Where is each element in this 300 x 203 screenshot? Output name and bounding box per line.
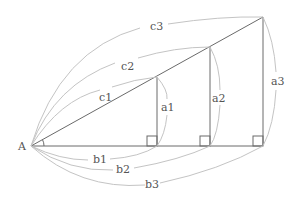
brace-b3-right	[160, 146, 263, 183]
right-angle-marker-1	[147, 136, 157, 146]
label-b2: b2	[116, 163, 130, 176]
angle-arc-A	[43, 140, 45, 146]
vertex-label-A: A	[17, 140, 27, 153]
brace-b2-right	[134, 146, 210, 168]
brace-a2-bottom	[210, 105, 220, 146]
brace-c1-right	[112, 77, 157, 87]
similar-triangles-diagram: A c1 c2 c3 a1 a2 a3 b1 b2 b3	[0, 0, 300, 203]
brace-a1-top	[157, 77, 167, 99]
brace-c3-right	[168, 17, 263, 24]
brace-a2-top	[210, 47, 220, 90]
right-angle-marker-2	[200, 136, 210, 146]
right-angle-marker-3	[253, 136, 263, 146]
hypotenuse-line	[31, 17, 263, 146]
label-b1: b1	[93, 153, 107, 166]
brace-a3-top	[263, 17, 276, 72]
label-a1: a1	[161, 101, 175, 114]
label-a2: a2	[212, 92, 226, 105]
label-c3: c3	[150, 20, 163, 33]
label-a3: a3	[271, 75, 285, 88]
label-b3: b3	[145, 178, 159, 191]
brace-a3-bottom	[263, 90, 276, 146]
brace-a1-bottom	[157, 115, 167, 146]
label-c1: c1	[99, 91, 112, 104]
label-c2: c2	[121, 60, 134, 73]
brace-c2-left	[31, 63, 115, 146]
brace-c3-left	[31, 28, 140, 146]
brace-b1-right	[110, 146, 157, 159]
